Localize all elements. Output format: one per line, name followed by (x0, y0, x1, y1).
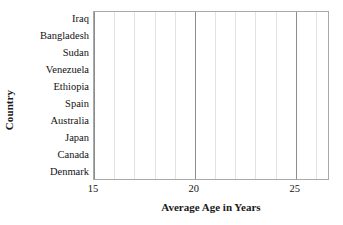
minor-gridline (134, 12, 135, 179)
minor-gridline (255, 12, 256, 179)
minor-gridline (235, 12, 236, 179)
y-axis-tick-labels: IraqBangladeshSudanVenezuelaEthiopiaSpai… (18, 11, 91, 180)
x-tick-label: 25 (275, 182, 315, 195)
y-tick-label: Japan (18, 132, 89, 143)
minor-gridline (276, 12, 277, 179)
minor-gridline (175, 12, 176, 179)
y-tick-label: Canada (18, 149, 89, 160)
y-tick-label: Iraq (18, 13, 89, 24)
major-gridline (94, 12, 95, 179)
minor-gridline (155, 12, 156, 179)
plot-area (93, 11, 329, 180)
x-axis-tick-labels: 152025 (0, 182, 343, 198)
y-tick-label: Australia (18, 115, 89, 126)
y-tick-label: Spain (18, 98, 89, 109)
x-tick-label: 15 (73, 182, 113, 195)
major-gridline (195, 12, 196, 179)
y-tick-label: Sudan (18, 47, 89, 58)
minor-gridline (114, 12, 115, 179)
y-axis-title: Country (0, 78, 18, 142)
y-tick-label: Ethiopia (18, 81, 89, 92)
major-gridline (296, 12, 297, 179)
y-tick-label: Bangladesh (18, 30, 89, 41)
minor-gridline (215, 12, 216, 179)
y-axis-title-label: Country (3, 90, 15, 130)
y-tick-label: Denmark (18, 166, 89, 177)
x-axis-title: Average Age in Years (93, 201, 329, 213)
x-tick-label: 20 (174, 182, 214, 195)
y-tick-label: Venezuela (18, 64, 89, 75)
chart-screenshot: Country IraqBangladeshSudanVenezuelaEthi… (0, 0, 343, 225)
minor-gridline (316, 12, 317, 179)
